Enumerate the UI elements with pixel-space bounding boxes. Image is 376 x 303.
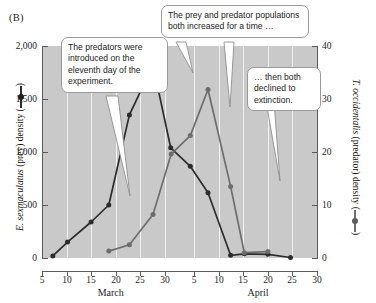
callout-pointer <box>176 42 193 73</box>
callout-declined-to-extinction: … then both declined to extinction. <box>247 67 321 111</box>
callout-pointer <box>224 42 234 107</box>
callout-both-increased: The prey and predator populations both i… <box>161 5 309 38</box>
callout-predator-introduction: The predators were introduced on the ele… <box>61 37 168 93</box>
callout-leader-lines <box>0 0 376 303</box>
callout-pointer <box>106 96 130 196</box>
callout-pointer <box>266 101 280 181</box>
figure-panel-b: (B) 05001,0001,5002,00001020304051015202… <box>0 0 376 303</box>
